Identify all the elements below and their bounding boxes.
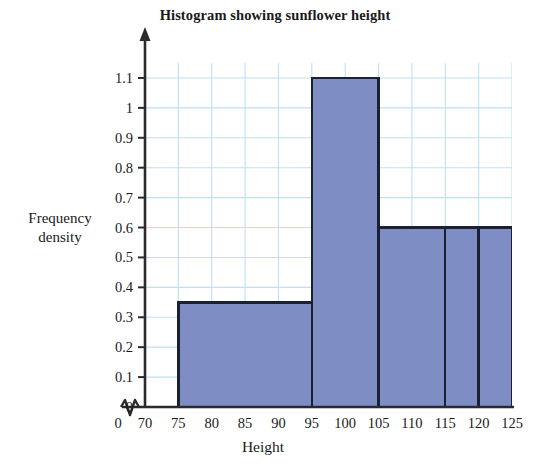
y-tick-label: 0.9 (91, 131, 133, 146)
plot-area (145, 63, 512, 407)
x-tick-label: 85 (228, 416, 262, 431)
histogram-bar (178, 302, 311, 407)
x-tick-label: 110 (395, 416, 429, 431)
y-tick-label: 0.7 (91, 191, 133, 206)
x-tick-label: 80 (195, 416, 229, 431)
x-tick-label: 75 (161, 416, 195, 431)
y-tick-label: 0.3 (91, 310, 133, 325)
y-tick-label: 0 (91, 400, 133, 415)
histogram-bar (479, 228, 512, 407)
x-tick-label: 95 (295, 416, 329, 431)
y-tick-label: 1.1 (91, 71, 133, 86)
histogram-bar (379, 228, 446, 407)
x-tick-label: 90 (261, 416, 295, 431)
x-tick-label: 100 (328, 416, 362, 431)
x-tick-label: 115 (428, 416, 462, 431)
histogram-bar (445, 228, 478, 407)
y-tick-label: 0.5 (91, 250, 133, 265)
x-tick-label: 70 (128, 416, 162, 431)
histogram-bar (312, 78, 379, 407)
y-tick-label: 0.4 (91, 280, 133, 295)
x-tick-label: 125 (495, 416, 529, 431)
x-tick-label: 120 (462, 416, 496, 431)
y-tick-label: 0.1 (91, 370, 133, 385)
x-axis-title: Height (203, 438, 323, 456)
bars-group (145, 63, 512, 407)
chart-title: Histogram showing sunflower height (0, 7, 550, 24)
y-tick-label: 1 (91, 101, 133, 116)
y-tick-label: 0.6 (91, 221, 133, 236)
y-tick-label: 0.8 (91, 161, 133, 176)
y-tick-label: 0.2 (91, 340, 133, 355)
histogram-chart: Histogram showing sunflower height Frequ… (0, 0, 550, 468)
y-axis-arrowhead (140, 27, 151, 41)
x-tick-label: 105 (362, 416, 396, 431)
